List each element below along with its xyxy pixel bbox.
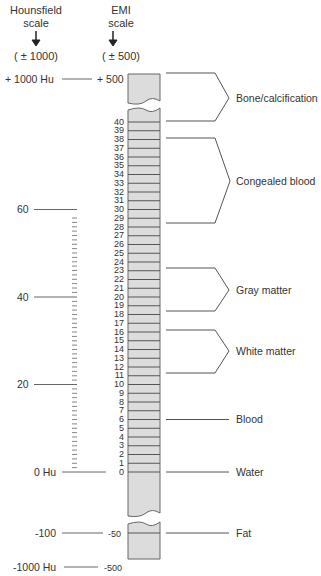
tissue-brackets [166,73,230,533]
tissue-label-gray-matter: Gray matter [236,284,291,296]
white-matter-bracket [166,330,229,373]
gray-matter-bracket [166,268,229,311]
hounsfield-minor-ticks [72,218,77,468]
hounsfield-label-20: 20 [17,378,29,390]
hounsfield-label-fat: -100 [35,527,56,539]
tissue-label-water: Water [236,466,264,478]
hounsfield-label-zero: 0 Hu [34,466,56,478]
hounsfield-label-40: 40 [17,291,29,303]
tissue-label-congealed-blood: Congealed blood [236,175,315,187]
tissue-label-blood: Blood [236,413,263,425]
emi-row-number: 0 [104,468,124,477]
down-arrow-icon [32,31,40,46]
tissue-label-white-matter: White matter [236,345,296,357]
emi-label-bottom: -500 [104,562,122,574]
tissue-label-bone: Bone/calcification [236,92,318,104]
down-arrow-icon [109,31,117,46]
tissue-label-fat: Fat [236,527,251,539]
hounsfield-label-top: + 1000 Hu [5,73,54,85]
scale-connector-lines [34,79,106,567]
emi-row-numbers: 40 39 38 37 36 35 34 33 32 31 30 29 28 2… [104,118,124,477]
emi-label-fat: -50 [108,528,121,540]
hounsfield-label-60: 60 [17,203,29,215]
emi-label-top: + 500 [97,73,124,85]
bone-bracket [166,73,229,121]
congealed-bracket [166,138,230,223]
hounsfield-label-bottom: -1000 Hu [13,561,56,573]
